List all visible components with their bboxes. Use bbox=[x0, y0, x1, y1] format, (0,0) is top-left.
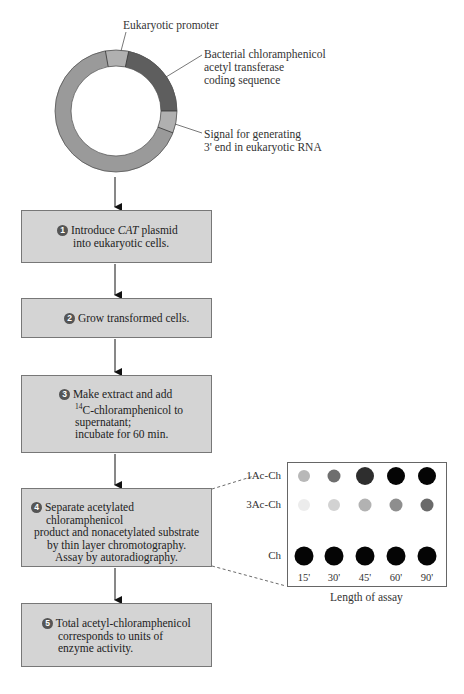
tlc-row-label-3ac-ch: 3Ac-Ch bbox=[246, 498, 281, 510]
tlc-spot bbox=[328, 470, 341, 483]
step-1-box: 1 Introduce CAT plasmid into eukaryotic … bbox=[21, 210, 212, 263]
label-eukaryotic-promoter: Eukaryotic promoter bbox=[123, 19, 218, 32]
tlc-time-45: 45' bbox=[350, 572, 380, 583]
step-4-box: 4 Separate acetylated chloramphenicol pr… bbox=[21, 488, 212, 567]
tlc-spot bbox=[325, 547, 344, 566]
tlc-spot bbox=[421, 499, 434, 512]
tlc-time-90: 90' bbox=[412, 572, 442, 583]
tlc-spot bbox=[328, 499, 340, 511]
step-5-box: 5 Total acetyl-chloramphenicol correspon… bbox=[21, 603, 212, 667]
signal-segment bbox=[165, 111, 169, 130]
plasmid-ring bbox=[55, 50, 177, 172]
step-number-badge: 3 bbox=[59, 389, 70, 400]
tlc-spot bbox=[356, 547, 375, 566]
tlc-time-60: 60' bbox=[381, 572, 411, 583]
step-number-badge: 2 bbox=[64, 313, 75, 324]
label-signal-3-end: Signal for generating 3' end in eukaryot… bbox=[204, 128, 322, 154]
step-number-badge: 5 bbox=[42, 618, 53, 629]
tlc-spot bbox=[387, 467, 405, 485]
tlc-spot bbox=[298, 470, 310, 482]
step-number-badge: 1 bbox=[57, 225, 68, 236]
label-cat-coding-sequence: Bacterial chloramphenicol acetyl transfe… bbox=[204, 48, 326, 87]
promoter-segment bbox=[107, 58, 127, 59]
tlc-time-15: 15' bbox=[289, 572, 319, 583]
tlc-spot bbox=[298, 499, 310, 511]
tlc-spot bbox=[390, 499, 403, 512]
tlc-spot bbox=[418, 467, 436, 485]
promoter-leader-line bbox=[121, 32, 126, 51]
diagram-graphics bbox=[0, 0, 464, 694]
tlc-spot bbox=[295, 547, 314, 566]
tlc-spot bbox=[387, 547, 406, 566]
tlc-axis-label: Length of assay bbox=[330, 591, 403, 604]
zoom-line-bottom bbox=[212, 566, 286, 586]
tlc-spot bbox=[359, 499, 372, 512]
tlc-spot bbox=[418, 547, 437, 566]
tlc-row-label-1ac-ch: 1Ac-Ch bbox=[246, 469, 281, 481]
tlc-time-30: 30' bbox=[319, 572, 349, 583]
signal-leader-line bbox=[175, 124, 202, 133]
step-3-box: 3 Make extract and add 14C-chloramphenic… bbox=[21, 375, 212, 453]
cat-leader-line bbox=[166, 55, 202, 77]
tlc-spot bbox=[356, 467, 374, 485]
step-2-box: 2 Grow transformed cells. bbox=[21, 298, 212, 338]
step-number-badge: 4 bbox=[31, 502, 42, 513]
tlc-row-label-ch: Ch bbox=[268, 549, 281, 561]
cat-coding-segment bbox=[127, 59, 169, 111]
